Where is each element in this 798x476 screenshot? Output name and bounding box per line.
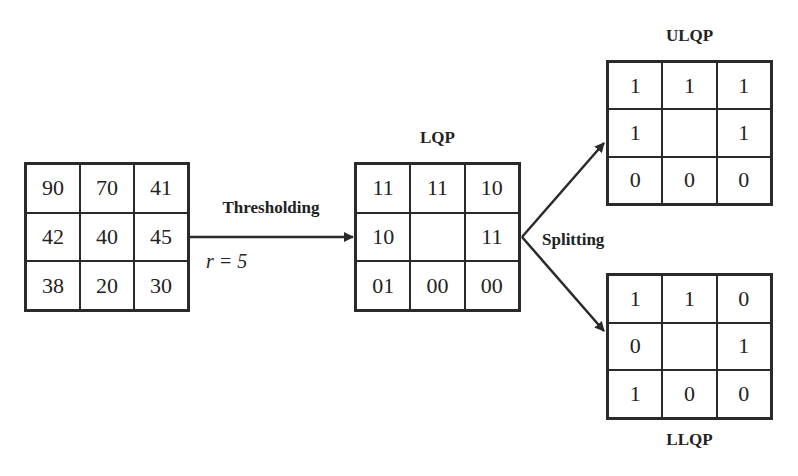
input-cell: 30 (134, 261, 188, 310)
lqp-cell: 10 (465, 164, 519, 213)
ulqp-cell: 1 (717, 62, 771, 109)
input-patch-grid: 90 70 41 42 40 45 38 20 30 (24, 162, 190, 312)
input-cell: 90 (26, 164, 80, 213)
llqp-cell: 1 (662, 275, 716, 323)
lqp-cell: 11 (410, 164, 464, 213)
ulqp-title: ULQP (606, 26, 773, 46)
lqp-cell: 11 (465, 213, 519, 262)
input-cell-center: 40 (80, 213, 134, 262)
lqp-cell: 00 (465, 261, 519, 310)
ulqp-cell: 1 (717, 109, 771, 156)
llqp-grid: 1 1 0 0 1 1 0 0 (606, 273, 773, 420)
llqp-cell: 0 (717, 275, 771, 323)
lqp-cell-center (410, 213, 464, 262)
input-cell: 20 (80, 261, 134, 310)
input-cell: 45 (134, 213, 188, 262)
ulqp-cell: 1 (608, 109, 662, 156)
ulqp-grid: 1 1 1 1 1 0 0 0 (606, 60, 773, 206)
lqp-cell: 00 (410, 261, 464, 310)
ulqp-cell: 0 (717, 157, 771, 204)
llqp-cell: 1 (608, 275, 662, 323)
lqp-cell: 01 (356, 261, 410, 310)
llqp-cell: 0 (608, 323, 662, 371)
input-cell: 41 (134, 164, 188, 213)
split-arrow-lower (522, 237, 604, 331)
lqp-cell: 11 (356, 164, 410, 213)
llqp-cell: 1 (608, 370, 662, 418)
llqp-cell: 0 (662, 370, 716, 418)
input-cell: 70 (80, 164, 134, 213)
lqp-title: LQP (354, 128, 521, 148)
threshold-param: r = 5 (206, 250, 247, 273)
lqp-cell: 10 (356, 213, 410, 262)
llqp-cell-center (662, 323, 716, 371)
splitting-label: Splitting (542, 230, 622, 250)
ulqp-cell: 1 (608, 62, 662, 109)
lqp-grid: 11 11 10 10 11 01 00 00 (354, 162, 521, 312)
ulqp-cell: 0 (608, 157, 662, 204)
input-cell: 42 (26, 213, 80, 262)
llqp-cell: 0 (717, 370, 771, 418)
ulqp-cell: 1 (662, 62, 716, 109)
input-cell: 38 (26, 261, 80, 310)
ulqp-cell-center (662, 109, 716, 156)
llqp-title: LLQP (606, 430, 773, 450)
split-arrow-upper (522, 143, 604, 237)
ulqp-cell: 0 (662, 157, 716, 204)
thresholding-label: Thresholding (206, 198, 336, 218)
llqp-cell: 1 (717, 323, 771, 371)
